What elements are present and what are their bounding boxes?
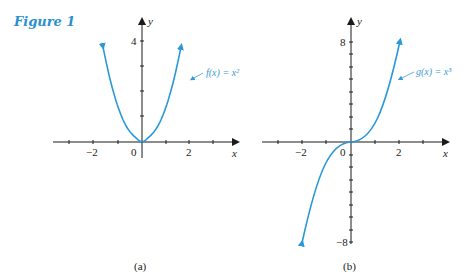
x-tick-label-0-b: 0	[340, 146, 346, 158]
x-tick-label-0-a: 0	[131, 146, 137, 158]
x-axis-label-a: x	[231, 147, 237, 159]
panel-b: −2 0 2 8 −8 x y g(x) = x³ (b)	[262, 15, 452, 273]
fn-label-pointer-b	[400, 72, 414, 79]
x-axis-label-b: x	[442, 147, 448, 159]
caption-b: (b)	[343, 260, 356, 273]
y-tick-label-8-b: 8	[340, 36, 346, 48]
y-axis-label-a: y	[147, 15, 153, 27]
y-tick-label-neg8-b: −8	[336, 236, 348, 248]
x-tick-label-neg2-b: −2	[295, 146, 307, 158]
caption-a: (a)	[134, 260, 147, 273]
fn-label-a: f(x) = x²	[206, 67, 240, 79]
x-tick-label-2-a: 2	[186, 146, 192, 158]
fn-label-pointer-a	[192, 73, 203, 79]
panel-a: −2 0 2 4 x y f(x) = x² (a)	[53, 10, 240, 273]
y-tick-label-4-a: 4	[131, 35, 137, 47]
x-tick-label-2-b: 2	[396, 146, 402, 158]
fn-label-b: g(x) = x³	[416, 66, 452, 78]
figure-canvas: −2 0 2 4 x y f(x) = x² (a)	[0, 0, 470, 278]
x-tick-label-neg2-a: −2	[86, 146, 98, 158]
y-axis-label-b: y	[356, 15, 362, 27]
